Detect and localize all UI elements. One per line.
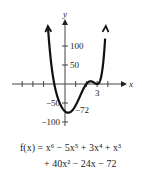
y-tick-label: 50 [70, 60, 80, 70]
x-tick-label: 3 [95, 88, 100, 98]
formula-line-1: f(x) = x⁶ − 5x⁵ + 3x⁴ + x³ [20, 142, 121, 153]
y-tick-label: −100 [41, 117, 60, 127]
chart: xy310050−50−100−72 [0, 0, 142, 130]
curve-arrow-right [103, 26, 109, 32]
y-tick-label: 100 [70, 41, 84, 51]
formula-line-2: + 40x² − 24x − 72 [44, 158, 116, 169]
y-axis-label: y [62, 9, 67, 19]
annotation-label: −72 [75, 105, 89, 115]
x-axis-label: x [128, 79, 133, 89]
